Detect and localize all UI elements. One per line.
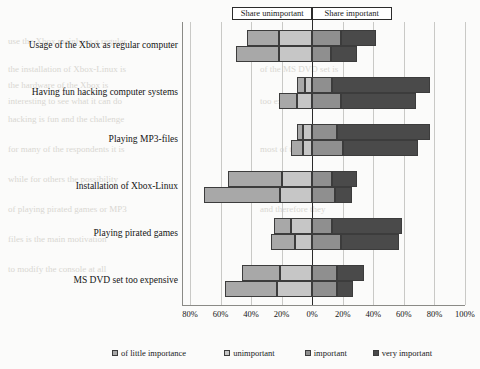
legend-item-important: important xyxy=(305,348,347,358)
legend-label: important xyxy=(314,348,347,358)
bar-segment-important xyxy=(312,124,336,140)
bar-segment-important xyxy=(312,234,341,250)
bar-segment-of-little-importance xyxy=(228,171,281,187)
bar-segment-unimportant xyxy=(280,187,312,203)
background-text: the installation of Xbox-Linux is xyxy=(8,62,126,77)
bar-segment-of-little-importance xyxy=(274,218,291,234)
bar-segment-important xyxy=(312,30,341,46)
x-tick-label: 100% xyxy=(449,309,480,319)
bar-segment-very-important xyxy=(337,124,430,140)
legend-swatch xyxy=(305,350,311,356)
legend-item-of-little-importance: of little importance xyxy=(112,348,186,358)
bar-segment-unimportant xyxy=(282,171,313,187)
x-tick-label: 0% xyxy=(296,309,328,319)
category-label: MS DVD set too expensive xyxy=(4,275,178,286)
bar-segment-unimportant xyxy=(280,265,312,281)
legend-label: unimportant xyxy=(233,348,275,358)
category-label: Usage of the Xbox as regular computer xyxy=(4,40,178,51)
legend-swatch xyxy=(112,350,118,356)
x-tick-label: 60% xyxy=(205,309,237,319)
gridline xyxy=(282,22,283,305)
bar-segment-very-important xyxy=(332,77,430,93)
bar-segment-very-important xyxy=(343,140,418,156)
share-unimportant-label: Share unimportant xyxy=(233,8,312,19)
bar-segment-important xyxy=(312,281,336,297)
legend-label: very important xyxy=(382,348,432,358)
bar-segment-unimportant xyxy=(303,140,312,156)
bar-segment-very-important xyxy=(332,171,356,187)
bar-segment-very-important xyxy=(341,30,376,46)
legend-swatch xyxy=(224,350,230,356)
bar-segment-of-little-importance xyxy=(247,30,279,46)
bar-segment-unimportant xyxy=(291,218,312,234)
bar-segment-unimportant xyxy=(277,281,312,297)
gridline xyxy=(190,22,191,305)
bar-segment-of-little-importance xyxy=(236,46,279,62)
bar-segment-unimportant xyxy=(297,93,312,109)
x-tick-label: 20% xyxy=(266,309,298,319)
bar-segment-very-important xyxy=(341,234,399,250)
bar-segment-very-important xyxy=(331,46,357,62)
category-label: Installation of Xbox-Linux xyxy=(4,181,178,192)
gridline xyxy=(465,22,466,305)
x-tick-label: 80% xyxy=(174,309,206,319)
x-axis-line xyxy=(182,305,465,306)
bar-segment-important xyxy=(312,218,332,234)
bar-segment-unimportant xyxy=(295,234,312,250)
bar-segment-unimportant xyxy=(279,30,313,46)
bar-segment-of-little-importance xyxy=(291,140,303,156)
x-tick-label: 20% xyxy=(327,309,359,319)
bar-segment-of-little-importance xyxy=(242,265,280,281)
gridline xyxy=(373,22,374,305)
bar-segment-of-little-importance xyxy=(204,187,280,203)
bar-segment-unimportant xyxy=(303,124,312,140)
bar-segment-very-important xyxy=(332,218,402,234)
share-important-label: Share important xyxy=(312,8,391,19)
bar-segment-important xyxy=(312,46,330,62)
bar-segment-of-little-importance xyxy=(279,93,297,109)
bar-segment-important xyxy=(312,77,332,93)
bar-segment-very-important xyxy=(337,281,354,297)
gridline xyxy=(404,22,405,305)
bar-segment-important xyxy=(312,187,335,203)
background-text: of playing pirated games or MP3 xyxy=(8,202,127,217)
bar-segment-important xyxy=(312,171,332,187)
x-tick-label: 40% xyxy=(235,309,267,319)
bar-segment-very-important xyxy=(341,93,416,109)
bar-segment-unimportant xyxy=(305,77,313,93)
category-label: Playing MP3-files xyxy=(4,134,178,145)
gridline xyxy=(343,22,344,305)
gridline xyxy=(221,22,222,305)
bar-segment-very-important xyxy=(335,187,352,203)
legend-label: of little importance xyxy=(121,348,186,358)
bar-segment-important xyxy=(312,140,343,156)
legend-item-unimportant: unimportant xyxy=(224,348,275,358)
bar-segment-of-little-importance xyxy=(297,77,305,93)
legend-swatch xyxy=(373,350,379,356)
legend-item-very-important: very important xyxy=(373,348,432,358)
bar-segment-of-little-importance xyxy=(271,234,295,250)
bar-segment-of-little-importance xyxy=(225,281,277,297)
chart-legend: of little importanceunimportantimportant… xyxy=(112,348,432,358)
bar-segment-important xyxy=(312,265,336,281)
x-tick-label: 60% xyxy=(388,309,420,319)
category-axis-line xyxy=(182,22,183,305)
bar-segment-important xyxy=(312,93,341,109)
category-label: Playing pirated games xyxy=(4,228,178,239)
gridline xyxy=(251,22,252,305)
gridline xyxy=(434,22,435,305)
bar-segment-unimportant xyxy=(279,46,313,62)
background-text: and therefore they xyxy=(260,202,325,217)
bar-segment-of-little-importance xyxy=(297,124,303,140)
x-tick-label: 80% xyxy=(418,309,450,319)
x-tick-label: 40% xyxy=(357,309,389,319)
category-label: Having fun hacking computer systems xyxy=(4,87,178,98)
bar-segment-very-important xyxy=(337,265,365,281)
background-text: hacking is fun and the challenge xyxy=(8,112,124,127)
background-text: of the MS DVD set is xyxy=(260,62,338,77)
